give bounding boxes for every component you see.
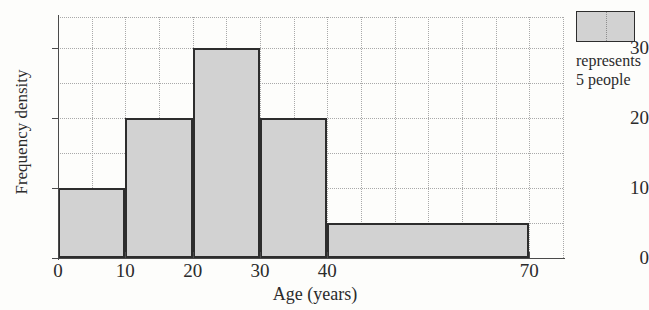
y-axis-tick xyxy=(52,118,59,119)
x-axis-tick-label: 10 xyxy=(95,261,155,281)
histogram-bar xyxy=(327,223,529,258)
legend-line-represents: represents xyxy=(576,51,646,70)
x-axis-tick xyxy=(327,252,328,258)
y-axis-tick-label: 0 xyxy=(605,248,649,267)
x-axis-tick xyxy=(260,252,261,258)
legend: represents 5 people xyxy=(576,11,646,89)
x-axis-tick-label: 40 xyxy=(297,261,357,281)
gridline-vertical xyxy=(529,17,530,258)
x-axis-line xyxy=(56,258,565,259)
gridline-vertical xyxy=(496,17,497,258)
gridline-vertical xyxy=(462,17,463,258)
legend-line-count: 5 people xyxy=(576,70,646,89)
y-axis-title: Frequency density xyxy=(12,52,32,212)
histogram-bar xyxy=(125,118,192,258)
x-axis-tick xyxy=(529,252,530,258)
x-axis-tick xyxy=(193,252,194,258)
x-axis-tick xyxy=(125,252,126,258)
legend-swatch-divider-icon xyxy=(606,12,607,41)
x-axis-tick-label: 70 xyxy=(499,261,559,281)
plot-frame-right xyxy=(563,17,564,258)
gridline-vertical xyxy=(327,17,328,258)
x-axis-tick-label: 20 xyxy=(163,261,223,281)
histogram-bar xyxy=(260,118,327,258)
legend-text: represents 5 people xyxy=(576,51,646,89)
histogram-bar xyxy=(193,48,260,258)
histogram-bar xyxy=(58,188,125,258)
plot-frame-top xyxy=(58,17,563,18)
histogram-figure: 010203001020304070 Frequency density Age… xyxy=(0,0,649,310)
x-axis-tick-label: 30 xyxy=(230,261,290,281)
gridline-vertical xyxy=(361,17,362,258)
y-axis-tick xyxy=(52,188,59,189)
y-axis-tick xyxy=(52,48,59,49)
y-axis-tick-label: 20 xyxy=(605,108,649,127)
y-axis-tick xyxy=(52,258,59,259)
gridline-vertical xyxy=(395,17,396,258)
y-axis-tick-label: 10 xyxy=(605,178,649,197)
gridline-vertical xyxy=(428,17,429,258)
legend-swatch xyxy=(576,11,635,42)
x-axis-tick-label: 0 xyxy=(28,261,88,281)
y-axis-line xyxy=(58,15,59,260)
gridline-horizontal xyxy=(58,83,563,84)
gridline-horizontal xyxy=(58,48,563,49)
x-axis-title: Age (years) xyxy=(215,284,415,305)
